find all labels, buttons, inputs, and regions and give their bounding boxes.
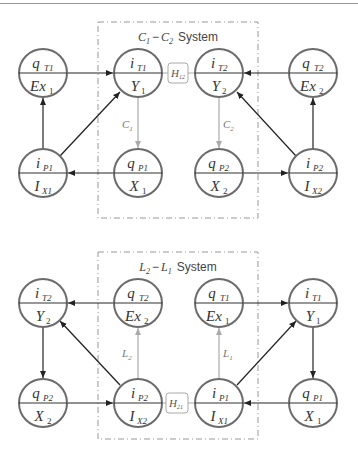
svg-text:I: I	[210, 408, 217, 424]
svg-text:Ex: Ex	[124, 308, 141, 324]
svg-text:X1: X1	[41, 186, 52, 196]
svg-text:T2: T2	[139, 293, 149, 303]
svg-text:P2: P2	[42, 393, 53, 403]
svg-text:q: q	[127, 285, 135, 301]
svg-text:T2: T2	[42, 293, 52, 303]
node-iP1: i P1 I X1	[19, 149, 67, 197]
node-qP1: q P1 X 1	[289, 379, 337, 427]
svg-text:Ex: Ex	[205, 308, 222, 324]
svg-text:1: 1	[317, 416, 322, 426]
node-iP2: i P2 I X2	[289, 149, 337, 197]
svg-text:I: I	[34, 178, 41, 194]
svg-text:Ex: Ex	[299, 78, 316, 94]
svg-text:X: X	[209, 178, 220, 194]
diagram-canvas: C1−C2System C1 C2 H12 q T1 Ex 1	[0, 0, 358, 464]
node-iT2: i T2 Y 2	[19, 279, 67, 327]
edge-label-c1: C1	[122, 118, 133, 133]
svg-text:i: i	[36, 155, 40, 171]
svg-text:X: X	[303, 408, 314, 424]
svg-text:P1: P1	[218, 393, 229, 403]
svg-text:q: q	[302, 385, 310, 401]
svg-text:P1: P1	[42, 163, 53, 173]
svg-text:P2: P2	[137, 393, 148, 403]
svg-text:1: 1	[49, 86, 54, 96]
svg-text:q: q	[302, 55, 310, 71]
svg-text:T1: T1	[137, 63, 147, 73]
svg-text:T1: T1	[220, 293, 230, 303]
svg-text:2: 2	[47, 416, 52, 426]
system-title: L2−L1System	[138, 260, 216, 276]
svg-text:I: I	[129, 408, 136, 424]
svg-text:i: i	[306, 155, 310, 171]
svg-text:T2: T2	[218, 63, 228, 73]
svg-text:X2: X2	[311, 186, 322, 196]
svg-text:2: 2	[223, 186, 228, 196]
svg-text:2: 2	[319, 86, 324, 96]
svg-text:2: 2	[222, 86, 227, 96]
svg-text:T2: T2	[314, 63, 324, 73]
system-c1-c2: C1−C2System C1 C2 H12 q T1 Ex 1	[19, 22, 337, 218]
svg-text:i: i	[212, 385, 216, 401]
svg-text:X2: X2	[136, 416, 147, 426]
node-iT2: i T2 Y 2	[195, 49, 243, 97]
svg-text:1: 1	[316, 316, 321, 326]
node-iP1: i P1 I X1	[195, 379, 243, 427]
svg-text:T1: T1	[44, 63, 54, 73]
svg-text:X1: X1	[217, 416, 228, 426]
node-qP2: q P2 X 2	[19, 379, 67, 427]
node-qT2: q T2 Ex 2	[114, 279, 162, 327]
node-qT2: q T2 Ex 2	[289, 49, 337, 97]
svg-text:P2: P2	[312, 163, 323, 173]
edge-iP2-to-iT2	[60, 321, 120, 385]
node-qP1: q P1 X 1	[114, 149, 162, 197]
svg-text:P1: P1	[312, 393, 323, 403]
svg-text:2: 2	[46, 316, 51, 326]
svg-text:i: i	[211, 55, 215, 71]
node-qT1: q T1 Ex 1	[19, 49, 67, 97]
svg-text:1: 1	[141, 86, 146, 96]
svg-text:q: q	[32, 385, 40, 401]
edge-iP2-to-iT2	[237, 92, 296, 156]
svg-text:q: q	[208, 155, 216, 171]
svg-text:i: i	[130, 55, 134, 71]
svg-text:Ex: Ex	[29, 78, 46, 94]
svg-text:2: 2	[144, 316, 149, 326]
system-l2-l1: L2−L1System L2 L1 H21 i T2 Y 2	[19, 252, 337, 439]
svg-text:P2: P2	[218, 163, 229, 173]
edge-label-c2: C2	[223, 118, 234, 133]
svg-text:X: X	[128, 178, 139, 194]
node-iP2: i P2 I X2	[114, 379, 162, 427]
svg-text:q: q	[32, 55, 40, 71]
node-iT1: i T1 Y 1	[289, 279, 337, 327]
edge-iP1-to-iT1	[60, 92, 120, 156]
svg-text:q: q	[127, 155, 135, 171]
svg-text:I: I	[304, 178, 311, 194]
svg-text:i: i	[35, 285, 39, 301]
svg-text:1: 1	[225, 316, 230, 326]
system-title: C1−C2System	[138, 30, 218, 46]
svg-text:X: X	[33, 408, 44, 424]
svg-text:i: i	[131, 385, 135, 401]
svg-text:P1: P1	[137, 163, 148, 173]
edge-label-l2: L2	[121, 347, 132, 362]
edge-label-l1: L1	[222, 347, 233, 362]
edge-iP1-to-iT1	[237, 321, 296, 385]
svg-text:i: i	[305, 285, 309, 301]
svg-text:q: q	[208, 285, 216, 301]
node-qT1: q T1 Ex 1	[195, 279, 243, 327]
node-qP2: q P2 X 2	[195, 149, 243, 197]
svg-text:T1: T1	[312, 293, 322, 303]
svg-text:1: 1	[142, 186, 147, 196]
node-iT1: i T1 Y 1	[114, 49, 162, 97]
